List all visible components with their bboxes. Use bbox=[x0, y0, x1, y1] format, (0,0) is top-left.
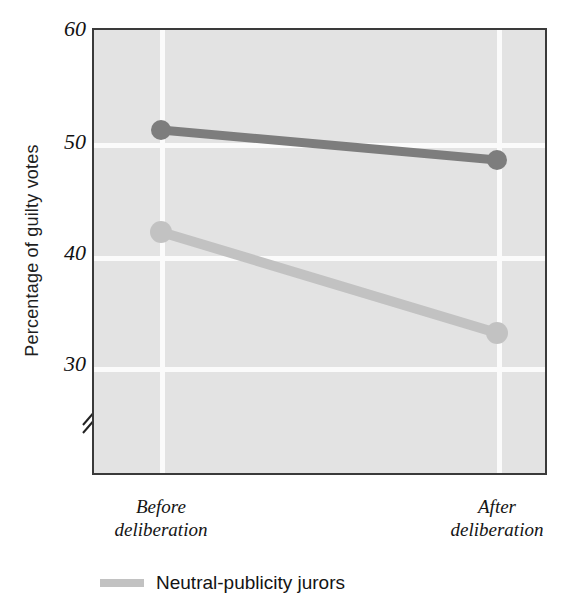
x-tick-label-after: After deliberation bbox=[387, 495, 577, 541]
gridline-x-before bbox=[160, 30, 165, 473]
y-tick-label-60: 60 bbox=[26, 16, 86, 42]
x-tick-label-before-line1: Before bbox=[51, 495, 271, 518]
chart-legend: Neutral-publicity jurors bbox=[100, 572, 345, 594]
plot-area bbox=[92, 28, 547, 475]
x-tick-label-before: Before deliberation bbox=[51, 495, 271, 541]
legend-label-neutral-publicity: Neutral-publicity jurors bbox=[156, 572, 345, 594]
x-tick-label-before-line2: deliberation bbox=[51, 518, 271, 541]
y-tick-label-50: 50 bbox=[26, 129, 86, 155]
x-tick-label-after-line2: deliberation bbox=[387, 518, 577, 541]
gridline-x-after bbox=[497, 30, 502, 473]
chart-figure: Percentage of guilty votes 60 50 40 30 bbox=[0, 0, 577, 606]
legend-swatch-neutral-publicity bbox=[100, 579, 144, 587]
x-tick-label-after-line1: After bbox=[387, 495, 577, 518]
y-tick-label-40: 40 bbox=[26, 240, 86, 266]
y-tick-label-30: 30 bbox=[26, 351, 86, 377]
